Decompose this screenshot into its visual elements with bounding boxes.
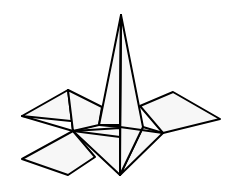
center-vertical bbox=[120, 15, 121, 175]
origami-figure bbox=[0, 0, 235, 191]
spike-left bbox=[99, 15, 121, 127]
left-rhombus-inner bbox=[68, 90, 102, 131]
right-rhombus bbox=[140, 92, 220, 133]
